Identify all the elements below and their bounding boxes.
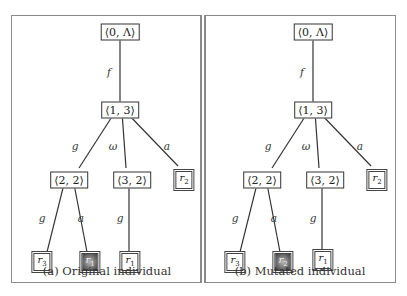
node-2-2: ⟨2, 2⟩ bbox=[50, 172, 88, 189]
node-1-3: ⟨1, 3⟩ bbox=[101, 102, 139, 119]
node-1-3: ⟨1, 3⟩ bbox=[294, 102, 332, 119]
node-root: ⟨0, Λ⟩ bbox=[101, 24, 140, 41]
node-2-2: ⟨2, 2⟩ bbox=[243, 172, 281, 189]
edge-label-g: g bbox=[117, 212, 124, 224]
tree-edges bbox=[12, 16, 202, 284]
node-3-2: ⟨3, 2⟩ bbox=[306, 172, 344, 189]
edge-label-a: a bbox=[78, 212, 84, 224]
panel-original-individual: ⟨0, Λ⟩ f ⟨1, 3⟩ g ω a ⟨2, 2⟩ ⟨3, 2⟩ r2 g… bbox=[11, 15, 201, 283]
leaf-r2: r2 bbox=[366, 169, 387, 191]
edge-label-g: g bbox=[265, 140, 272, 152]
panel-mutated-individual: ⟨0, Λ⟩ f ⟨1, 3⟩ g ω a ⟨2, 2⟩ ⟨3, 2⟩ r2 g… bbox=[205, 15, 396, 283]
edge-label-a: a bbox=[164, 140, 170, 152]
leaf-r2: r2 bbox=[173, 169, 194, 191]
node-root: ⟨0, Λ⟩ bbox=[294, 24, 333, 41]
edge-label-f: f bbox=[300, 66, 304, 78]
edge-label-a: a bbox=[357, 140, 363, 152]
caption: (a) Original individual bbox=[43, 264, 171, 278]
edge-label-omega: ω bbox=[109, 140, 118, 152]
caption: (b) Mutated individual bbox=[235, 264, 366, 278]
edge-label-g: g bbox=[72, 140, 79, 152]
edge-label-g: g bbox=[232, 212, 239, 224]
edge-label-f: f bbox=[107, 66, 111, 78]
edge-label-g: g bbox=[39, 212, 46, 224]
edge-label-g: g bbox=[310, 212, 317, 224]
node-3-2: ⟨3, 2⟩ bbox=[113, 172, 151, 189]
edge-label-a: a bbox=[271, 212, 277, 224]
edge-label-omega: ω bbox=[302, 140, 311, 152]
